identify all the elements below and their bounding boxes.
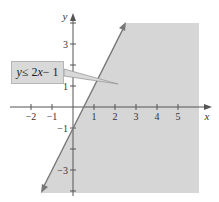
x-tick-label: −2 bbox=[26, 111, 37, 122]
inequality-op: ≤ 2 bbox=[22, 65, 38, 80]
x-tick-label: 3 bbox=[134, 111, 139, 122]
y-tick-label: −1 bbox=[57, 123, 68, 134]
line-arrow-top-icon bbox=[119, 22, 126, 31]
inequality-graph: −2 −1 1 2 3 4 5 3 1 −1 −3 x y bbox=[0, 0, 219, 202]
y-tick-label: 3 bbox=[63, 39, 68, 50]
x-tick-label: 1 bbox=[92, 111, 97, 122]
y-axis-label: y bbox=[62, 10, 68, 22]
x-axis-label: x bbox=[204, 110, 210, 122]
x-tick-label: −1 bbox=[47, 111, 58, 122]
y-axis-arrow-icon bbox=[70, 13, 76, 21]
x-tick-label: 2 bbox=[113, 111, 118, 122]
inequality-tail: − 1 bbox=[43, 65, 59, 80]
x-tick-label: 4 bbox=[155, 111, 160, 122]
inequality-label: y ≤ 2x − 1 bbox=[11, 61, 64, 84]
y-tick-label: −3 bbox=[57, 165, 68, 176]
x-tick-label: 5 bbox=[176, 111, 181, 122]
